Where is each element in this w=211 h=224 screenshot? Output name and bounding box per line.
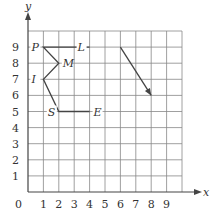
- x-tick-label: 4: [86, 198, 93, 211]
- x-tick-label: 1: [40, 198, 47, 211]
- x-tick-label: 7: [132, 198, 139, 211]
- x-tick-label: 6: [117, 198, 124, 211]
- axes: y x 0: [15, 0, 210, 211]
- y-tick-label: 3: [12, 138, 19, 151]
- x-axis-arrow-icon: [194, 189, 202, 195]
- point-label-p: P: [30, 41, 39, 54]
- vector-arrowhead-icon: [145, 88, 151, 96]
- origin-label: 0: [15, 198, 22, 211]
- y-tick-label: 4: [12, 122, 19, 135]
- y-tick-label: 5: [12, 106, 19, 119]
- y-axis-label: y: [24, 0, 32, 13]
- point-label-s: S: [48, 106, 56, 119]
- y-tick-label: 9: [12, 41, 19, 54]
- point-label-i: I: [30, 73, 36, 86]
- x-tick-label: 3: [71, 198, 78, 211]
- y-axis-arrow-icon: [25, 12, 31, 20]
- tick-labels: 123456789123456789: [12, 41, 170, 211]
- x-axis-label: x: [203, 186, 210, 199]
- y-tick-label: 6: [12, 89, 19, 102]
- x-tick-label: 9: [163, 198, 170, 211]
- x-tick-label: 8: [148, 198, 155, 211]
- point-labels: PMISEL: [30, 41, 102, 118]
- point-label-e: E: [93, 106, 102, 119]
- y-tick-label: 1: [12, 170, 19, 183]
- y-tick-label: 2: [12, 154, 19, 167]
- x-tick-label: 2: [55, 198, 62, 211]
- coordinate-grid-diagram: y x 0 123456789123456789 PMISEL: [0, 0, 211, 224]
- point-label-l: L: [77, 41, 85, 54]
- y-tick-label: 7: [12, 73, 19, 86]
- x-tick-label: 5: [102, 198, 109, 211]
- y-tick-label: 8: [12, 57, 19, 70]
- point-label-m: M: [62, 57, 75, 70]
